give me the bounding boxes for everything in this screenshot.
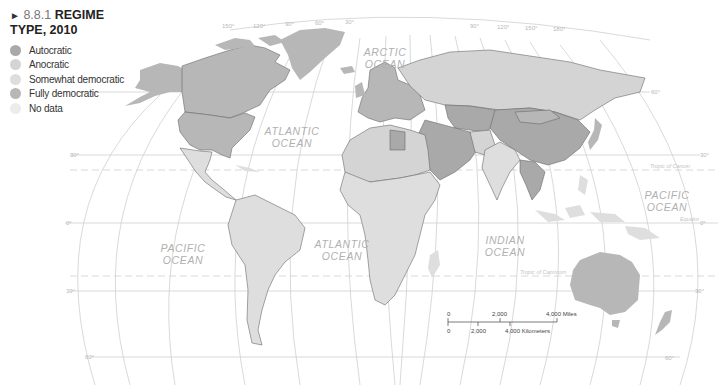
svg-text:OCEAN: OCEAN — [163, 254, 203, 266]
svg-text:OCEAN: OCEAN — [647, 201, 687, 213]
svg-text:90°: 90° — [285, 21, 295, 27]
svg-text:180°: 180° — [553, 26, 566, 32]
svg-text:30°: 30° — [70, 152, 80, 158]
canada — [182, 45, 290, 118]
legend-item-somewhat-democratic: Somewhat democratic — [10, 72, 124, 87]
svg-text:120°: 120° — [497, 24, 510, 30]
svg-text:150°: 150° — [222, 23, 235, 29]
swatch-no-data — [10, 103, 21, 114]
svg-text:60°: 60° — [651, 89, 661, 95]
legend-items: Autocratic Anocratic Somewhat democratic… — [10, 43, 124, 116]
svg-text:0°: 0° — [700, 220, 706, 226]
svg-text:0: 0 — [447, 328, 451, 334]
atlantic-north-label: ATLANTIC — [264, 125, 320, 137]
scale-bar: 0 2,000 4,000 Miles 0 2,000 4,000 Kilome… — [447, 311, 577, 334]
svg-text:60°: 60° — [315, 20, 325, 26]
svg-text:30°: 30° — [345, 19, 355, 25]
svg-text:OCEAN: OCEAN — [485, 246, 525, 258]
svg-text:120°: 120° — [253, 23, 266, 29]
north-africa — [342, 125, 430, 182]
svg-text:OCEAN: OCEAN — [365, 58, 405, 70]
atlantic-south-label: ATLANTIC — [314, 238, 370, 250]
indian-ocean-label: INDIAN — [485, 234, 524, 246]
swatch-autocratic — [10, 45, 21, 56]
svg-text:4,000 Miles: 4,000 Miles — [546, 311, 577, 317]
svg-text:90°: 90° — [470, 23, 480, 29]
svg-text:Tropic of Cancer: Tropic of Cancer — [650, 163, 691, 169]
arrow-icon: ► — [10, 10, 20, 21]
svg-text:0°: 0° — [66, 220, 72, 226]
arctic-ocean-label: ARCTIC — [363, 46, 407, 58]
greenland — [280, 28, 345, 80]
australia — [570, 252, 640, 315]
svg-text:2,000: 2,000 — [492, 311, 508, 317]
swatch-somewhat-democratic — [10, 74, 21, 85]
svg-text:Equator: Equator — [680, 216, 700, 222]
title-line-1: REGIME — [55, 8, 104, 22]
south-america — [228, 195, 305, 345]
legend-item-fully-democratic: Fully democratic — [10, 87, 124, 102]
svg-text:0: 0 — [447, 311, 451, 317]
svg-text:30°: 30° — [695, 288, 705, 294]
svg-text:150°: 150° — [525, 25, 538, 31]
svg-text:4,000 Kilometers: 4,000 Kilometers — [505, 328, 550, 334]
pacific-west-label: PACIFIC — [645, 189, 690, 201]
figure-title: ► 8.8.1 REGIME TYPE, 2010 — [10, 8, 124, 38]
figure-number: 8.8.1 — [23, 8, 51, 22]
land — [125, 28, 672, 345]
svg-text:2,000: 2,000 — [471, 328, 487, 334]
svg-text:60°: 60° — [85, 354, 95, 360]
svg-text:30°: 30° — [700, 152, 710, 158]
legend-item-autocratic: Autocratic — [10, 43, 124, 58]
legend: ► 8.8.1 REGIME TYPE, 2010 Autocratic Ano… — [10, 8, 124, 116]
svg-text:60°: 60° — [665, 355, 675, 361]
swatch-fully-democratic — [10, 88, 21, 99]
pacific-east-label: PACIFIC — [161, 242, 206, 254]
legend-item-anocratic: Anocratic — [10, 58, 124, 73]
legend-item-no-data: No data — [10, 101, 124, 116]
svg-text:30°: 30° — [66, 288, 76, 294]
svg-text:OCEAN: OCEAN — [272, 137, 312, 149]
southeast-asia — [520, 160, 545, 200]
svg-text:OCEAN: OCEAN — [322, 250, 362, 262]
svg-text:Tropic of Capricorn: Tropic of Capricorn — [520, 269, 566, 275]
title-line-2: TYPE, 2010 — [10, 23, 77, 37]
swatch-anocratic — [10, 59, 21, 70]
